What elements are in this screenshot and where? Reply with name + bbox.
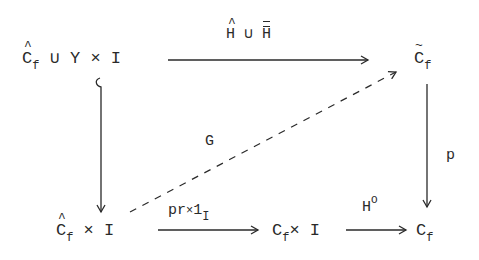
double-bar-accent: H [262,27,271,42]
hat-accent: H [226,27,235,42]
node-bottom-left: Cf × I [56,222,114,239]
hat-accent: C [56,222,66,239]
hat-accent: C [22,50,32,67]
node-top-right: Cf [414,50,431,67]
label-top-arrow: H ∪ H [226,27,271,42]
node-top-left: Cf ∪ Y × I [22,50,121,67]
node-bottom-mid: Cf× I [272,222,320,239]
node-bottom-right: Cf [416,222,433,239]
left-inclusion-arrow [96,78,101,212]
diagonal-dashed-arrow [130,72,396,212]
label-diagonal-arrow: G [205,134,214,149]
tilde-accent: C [414,50,424,67]
label-right-arrow: p [446,148,455,163]
label-bottom-arrow-2: HO [362,200,378,215]
label-bottom-arrow-1: pr×1I [168,203,209,218]
